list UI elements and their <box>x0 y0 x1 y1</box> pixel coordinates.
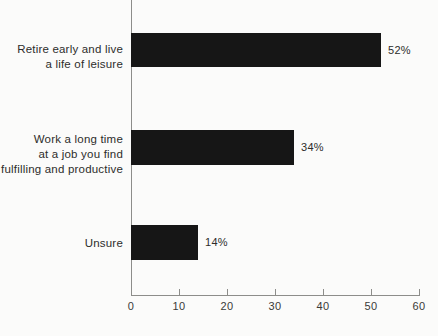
category-label-line: Work a long time <box>1 132 123 147</box>
bar-value-label-0: 52% <box>388 44 411 56</box>
category-label-line: Unsure <box>85 236 123 251</box>
category-label-line: fulfilling and productive <box>1 162 123 177</box>
bar-series-0 <box>131 33 381 67</box>
x-axis-tick <box>419 289 420 295</box>
category-label-2: Unsure <box>85 236 123 251</box>
bar-chart: 0 10 20 30 40 50 60 Retire early and liv… <box>0 0 438 336</box>
x-axis-tick <box>371 289 372 295</box>
x-axis-tick-label: 50 <box>351 300 391 312</box>
x-axis-line <box>131 295 420 296</box>
bar-value-label-1: 34% <box>301 141 324 153</box>
x-axis-tick-label: 20 <box>207 300 247 312</box>
bar-series-1 <box>131 130 294 165</box>
x-axis-tick <box>131 289 132 295</box>
x-axis-tick-label: 30 <box>255 300 295 312</box>
x-axis-tick <box>179 289 180 295</box>
category-label-0: Retire early and live a life of leisure <box>17 42 123 72</box>
x-axis-tick-label: 40 <box>303 300 343 312</box>
bar-value-label-2: 14% <box>205 236 228 248</box>
x-axis-tick <box>275 289 276 295</box>
x-axis-tick-label: 60 <box>399 300 438 312</box>
bar-series-2 <box>131 225 198 260</box>
category-label-line: a life of leisure <box>17 57 123 72</box>
category-label-line: at a job you find <box>1 147 123 162</box>
category-label-line: Retire early and live <box>17 42 123 57</box>
x-axis-tick-label: 0 <box>111 300 151 312</box>
x-axis-tick-label: 10 <box>159 300 199 312</box>
x-axis-tick <box>323 289 324 295</box>
category-label-1: Work a long time at a job you find fulfi… <box>1 132 123 177</box>
x-axis-tick <box>227 289 228 295</box>
